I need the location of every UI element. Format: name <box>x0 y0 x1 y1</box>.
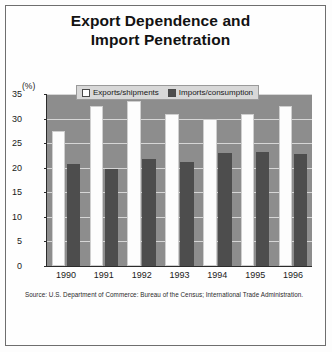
y-axis-tick-label: 15 <box>0 187 22 197</box>
bar-exports-shipments-1990 <box>52 131 66 266</box>
legend-swatch-icon <box>168 89 176 97</box>
chart-legend: Exports/shipmentsImports/consumption <box>76 85 259 100</box>
y-axis-unit-label: (%) <box>22 81 35 91</box>
legend-item-2: Imports/consumption <box>168 88 253 97</box>
x-axis-tick-label-1996: 1996 <box>275 270 311 280</box>
bar-exports-shipments-1991 <box>90 106 104 266</box>
bar-imports-consumption-1996 <box>294 154 308 266</box>
y-axis-tick-label: 10 <box>0 212 22 222</box>
legend-label: Exports/shipments <box>93 88 159 97</box>
bar-imports-consumption-1994 <box>218 153 232 266</box>
y-axis-tick-label: 5 <box>0 236 22 246</box>
bars-layer <box>47 94 312 266</box>
bar-imports-consumption-1995 <box>256 152 270 267</box>
bar-imports-consumption-1990 <box>67 164 81 266</box>
source-note: Source: U.S. Department of Commerce: Bur… <box>25 291 315 298</box>
chart-title-line-2: Import Penetration <box>12 30 309 49</box>
bar-exports-shipments-1995 <box>241 114 255 266</box>
bar-exports-shipments-1993 <box>165 114 179 266</box>
bar-exports-shipments-1994 <box>203 119 217 266</box>
legend-label: Imports/consumption <box>179 88 253 97</box>
x-axis-tick-label-1990: 1990 <box>48 270 84 280</box>
y-axis-tick-label: 35 <box>0 89 22 99</box>
chart-title-line-1: Export Dependence and <box>71 12 251 29</box>
bar-exports-shipments-1996 <box>279 106 293 266</box>
bar-imports-consumption-1993 <box>180 162 194 266</box>
legend-item-1: Exports/shipments <box>82 88 159 97</box>
y-axis-tick-mark <box>44 266 48 267</box>
bar-imports-consumption-1992 <box>142 159 156 266</box>
chart-figure: Export Dependence and Import Penetration… <box>0 0 332 352</box>
y-axis-tick-label: 25 <box>0 138 22 148</box>
bar-imports-consumption-1991 <box>105 169 119 266</box>
bar-exports-shipments-1992 <box>127 101 141 266</box>
y-axis-tick-label: 0 <box>0 261 22 271</box>
x-axis-tick-label-1994: 1994 <box>199 270 235 280</box>
legend-swatch-icon <box>82 89 90 97</box>
x-axis-tick-label-1991: 1991 <box>86 270 122 280</box>
x-axis-tick-label-1992: 1992 <box>124 270 160 280</box>
chart-title: Export Dependence and Import Penetration <box>12 11 309 49</box>
x-axis-tick-label-1995: 1995 <box>237 270 273 280</box>
plot-area: 05101520253035 1990199119921993199419951… <box>46 94 312 267</box>
x-axis-tick-label-1993: 1993 <box>162 270 198 280</box>
y-axis-tick-label: 30 <box>0 114 22 124</box>
y-axis-tick-label: 20 <box>0 163 22 173</box>
